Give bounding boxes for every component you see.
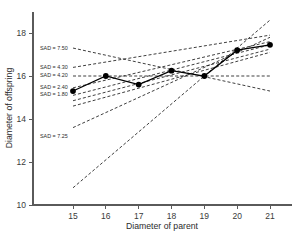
- sad-annotation-label: SAD = 7.50: [40, 45, 68, 51]
- y-tick-label: 12: [17, 157, 27, 167]
- data-point-marker: [103, 73, 109, 79]
- y-tick-label: 16: [17, 71, 27, 81]
- data-point-marker: [267, 42, 273, 48]
- chart-svg: 15161718192021 1012141618 SAD = 7.50SAD …: [0, 0, 303, 236]
- y-tick-label: 18: [17, 28, 27, 38]
- x-tick-label: 17: [134, 211, 144, 221]
- data-point-marker: [234, 47, 240, 53]
- sad-annotation-label: SAD = 4.30: [40, 64, 68, 70]
- data-point-marker: [70, 88, 76, 94]
- y-tick-label: 10: [17, 200, 27, 210]
- data-point-marker: [201, 73, 207, 79]
- x-tick-label: 15: [68, 211, 78, 221]
- x-tick-label: 19: [200, 211, 210, 221]
- sad-annotation-label: SAD = 1.80: [40, 91, 68, 97]
- scatter-regression-figure: 15161718192021 1012141618 SAD = 7.50SAD …: [0, 0, 303, 236]
- sad-annotation-label: SAD = 4.20: [40, 72, 68, 78]
- sad-annotation-label: SAD = 2.40: [40, 84, 68, 90]
- y-axis-title: Diameter of offspring: [4, 68, 14, 149]
- chart-background: [0, 0, 303, 236]
- x-tick-label: 20: [232, 211, 242, 221]
- x-tick-label: 21: [265, 211, 275, 221]
- x-axis-title: Diameter of parent: [126, 221, 199, 231]
- y-tick-label: 14: [17, 114, 27, 124]
- sad-annotation-label: SAD = 7.25: [40, 133, 68, 139]
- x-tick-label: 18: [167, 211, 177, 221]
- x-tick-label: 16: [101, 211, 111, 221]
- data-point-marker: [136, 82, 142, 88]
- data-point-marker: [169, 68, 175, 74]
